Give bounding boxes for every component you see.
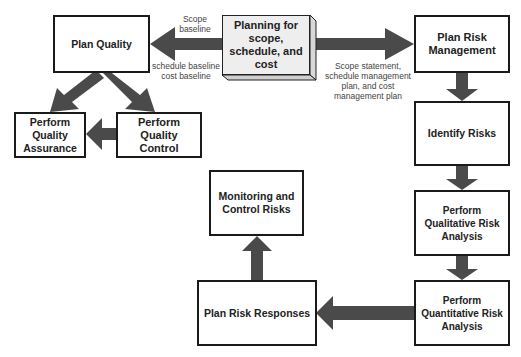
node-identify-risks: Identify Risks bbox=[414, 101, 510, 166]
monitoring-control-risks-label: Monitoring and Control Risks bbox=[219, 190, 295, 216]
node-plan-quality: Plan Quality bbox=[53, 15, 150, 73]
qualitative-risk-analysis-label: Perform Qualitative Risk Analysis bbox=[424, 204, 499, 243]
plan-risk-management-label: Plan Risk Management bbox=[428, 31, 495, 57]
arrow-to-plan-risk-management bbox=[316, 28, 414, 60]
arrow-to-quality-assurance bbox=[50, 70, 104, 112]
arrow-to-quantitative bbox=[446, 256, 478, 280]
plan-quality-label: Plan Quality bbox=[71, 38, 132, 51]
perform-quality-control-label: Perform Quality Control bbox=[118, 116, 200, 155]
edge-label-schedule-cost-baseline: schedule baseline cost baseline bbox=[146, 61, 226, 81]
node-plan-risk-management: Plan Risk Management bbox=[414, 15, 510, 73]
node-planning: Planning for scope, schedule, and cost bbox=[222, 15, 314, 80]
arrow-qc-to-qa bbox=[86, 118, 116, 150]
planning-label: Planning for scope, schedule, and cost bbox=[222, 15, 310, 75]
node-quantitative-risk-analysis: Perform Quantitative Risk Analysis bbox=[414, 280, 510, 346]
node-perform-quality-assurance: Perform Quality Assurance bbox=[14, 112, 86, 158]
edge-label-scope-baseline: Scope baseline bbox=[165, 14, 225, 34]
node-qualitative-risk-analysis: Perform Qualitative Risk Analysis bbox=[414, 190, 510, 256]
identify-risks-label: Identify Risks bbox=[428, 127, 496, 140]
node-perform-quality-control: Perform Quality Control bbox=[116, 112, 202, 158]
arrow-to-monitoring bbox=[242, 236, 272, 280]
arrow-to-identify-risks bbox=[446, 72, 478, 101]
perform-quality-assurance-label: Perform Quality Assurance bbox=[23, 116, 77, 155]
edge-label-risk-inputs: Scope statement, schedule management pla… bbox=[318, 61, 418, 101]
arrow-to-plan-risk-responses bbox=[316, 296, 414, 330]
node-plan-risk-responses: Plan Risk Responses bbox=[197, 280, 317, 346]
plan-risk-responses-label: Plan Risk Responses bbox=[204, 307, 310, 320]
node-monitoring-control-risks: Monitoring and Control Risks bbox=[209, 170, 304, 236]
quantitative-risk-analysis-label: Perform Quantitative Risk Analysis bbox=[421, 294, 503, 333]
arrow-to-qualitative bbox=[446, 166, 478, 190]
